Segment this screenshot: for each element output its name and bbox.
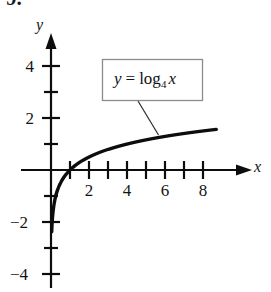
x-axis-label: x [254, 159, 261, 175]
graph-canvas [0, 0, 271, 292]
logarithm-graph-figure: 9. y x [0, 0, 271, 292]
y-axis-label: y [36, 17, 43, 33]
callout-equals: = [126, 69, 136, 88]
y-tick-label-neg4: −4 [2, 266, 28, 283]
y-tick-label-4: 4 [8, 58, 34, 75]
x-tick-label-4: 4 [117, 182, 137, 199]
x-tick-label-6: 6 [155, 182, 175, 199]
x-axis-arrowhead [236, 165, 252, 176]
callout-equation: y=log4x [114, 70, 176, 90]
y-tick-label-neg2: −2 [2, 214, 28, 231]
callout-base: 4 [161, 78, 167, 90]
callout-leader-line [138, 101, 159, 135]
x-tick-label-8: 8 [193, 182, 213, 199]
x-tick-label-2: 2 [79, 182, 99, 199]
callout-function-name: log [139, 69, 161, 88]
y-axis-arrowhead [46, 33, 57, 49]
y-tick-label-2: 2 [8, 110, 34, 127]
callout-lhs: y [114, 69, 122, 88]
log-curve-asymptote-tail [52, 194, 57, 232]
callout-argument: x [168, 69, 176, 88]
